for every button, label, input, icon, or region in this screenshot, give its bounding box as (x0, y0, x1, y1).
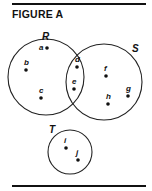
set-T-circle (48, 130, 92, 174)
point-c-label: c (39, 86, 44, 95)
point-j-label: j (75, 148, 79, 157)
point-h-label: h (106, 92, 111, 101)
point-j-dot (76, 158, 80, 162)
point-d-dot (75, 65, 79, 69)
point-b-label: b (24, 58, 29, 67)
point-e-label: e (72, 77, 77, 86)
point-c-dot (39, 96, 43, 100)
point-a-dot (45, 46, 49, 50)
point-g-dot (126, 94, 130, 98)
set-S-label: S (132, 43, 139, 54)
set-R-label: R (42, 31, 50, 42)
point-f-label: f (104, 64, 108, 73)
point-g-label: g (125, 84, 131, 93)
point-i-dot (64, 146, 68, 150)
point-a-label: a (39, 43, 44, 52)
set-T-label: T (49, 124, 56, 135)
point-e-dot (72, 87, 76, 91)
point-b-dot (24, 68, 28, 72)
point-i-label: i (64, 136, 67, 145)
venn-diagram: RSTabcdefghij (0, 0, 152, 191)
point-h-dot (106, 102, 110, 106)
point-f-dot (104, 74, 108, 78)
